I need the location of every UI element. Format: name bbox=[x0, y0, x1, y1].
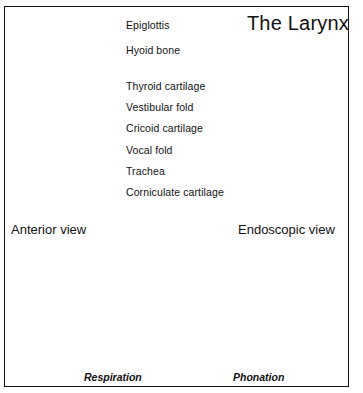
label-cricoid-cartilage: Cricoid cartilage bbox=[126, 122, 203, 134]
figure-title: The Larynx bbox=[247, 12, 349, 35]
caption-anterior-view: Anterior view bbox=[11, 222, 86, 237]
label-epiglottis: Epiglottis bbox=[126, 19, 170, 31]
label-vocal-fold: Vocal fold bbox=[126, 144, 173, 156]
caption-respiration: Respiration bbox=[84, 371, 142, 383]
label-hyoid-bone: Hyoid bone bbox=[126, 44, 180, 56]
larynx-figure: The Larynx Epiglottis Hyoid bone Thyroid… bbox=[0, 0, 363, 393]
label-thyroid-cartilage: Thyroid cartilage bbox=[126, 80, 205, 92]
label-vestibular-fold: Vestibular fold bbox=[126, 101, 193, 113]
caption-phonation: Phonation bbox=[233, 371, 284, 383]
caption-endoscopic-view: Endoscopic view bbox=[238, 222, 335, 237]
label-corniculate-cartilage: Corniculate cartilage bbox=[126, 186, 224, 198]
label-trachea: Trachea bbox=[126, 165, 165, 177]
